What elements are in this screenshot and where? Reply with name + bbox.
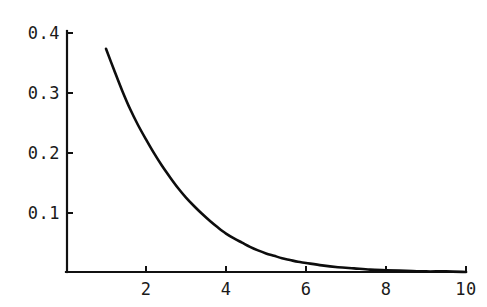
y-tick-label-04: 0.4 [28, 23, 60, 43]
x-tick-label-8: 8 [381, 279, 392, 299]
x-tick-label-10: 10 [455, 279, 476, 299]
chart-svg: 0.4 0.3 0.2 0.1 2 4 6 8 10 [0, 0, 487, 307]
chart-plot-area: 0.4 0.3 0.2 0.1 2 4 6 8 10 [0, 0, 487, 307]
y-tick-label-02: 0.2 [28, 143, 60, 163]
x-tick-label-6: 6 [301, 279, 312, 299]
chart-background [0, 0, 487, 307]
y-tick-label-01: 0.1 [28, 203, 60, 223]
y-tick-label-03: 0.3 [28, 83, 60, 103]
x-tick-label-4: 4 [221, 279, 232, 299]
x-tick-label-2: 2 [141, 279, 152, 299]
